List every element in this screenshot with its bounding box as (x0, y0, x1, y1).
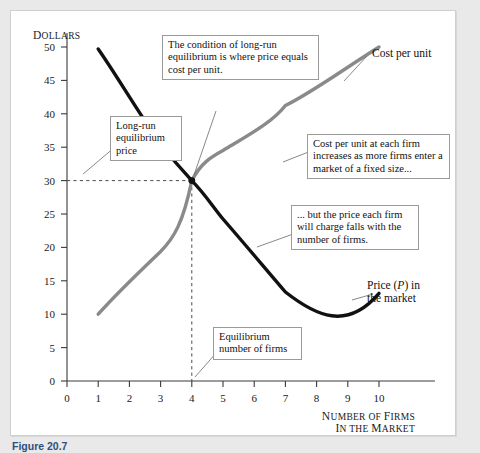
y-tick-label: 35 (44, 141, 56, 153)
price-label-line1: Price (P) in (367, 279, 420, 291)
callout-price-falls: ... but the price each firm will charge … (291, 205, 419, 250)
x-tick-label: 3 (158, 392, 164, 404)
y-tick-label: 40 (44, 108, 56, 120)
x-tick-label: 9 (345, 392, 351, 404)
x-tick-label: 6 (251, 392, 257, 404)
x-tick-label: 10 (374, 392, 386, 404)
y-tick-label: 50 (44, 41, 56, 53)
x-tick-label: 4 (189, 392, 195, 404)
x-axis-ticks (67, 381, 379, 387)
price-label-line2: the market (367, 292, 416, 304)
y-tick-label: 20 (44, 241, 56, 253)
x-tick-label: 1 (95, 392, 101, 404)
y-tick-label: 5 (50, 342, 56, 354)
y-tick-label: 0 (50, 375, 56, 387)
price-curve-label: Price (P) in the market (367, 279, 420, 305)
y-axis-title: DOLLARS (33, 29, 80, 41)
x-tick-label: 8 (314, 392, 320, 404)
callout-long-run-equilibrium-price: Long-run equilibrium price (110, 116, 182, 161)
x-tick-label: 7 (283, 392, 289, 404)
x-axis-tick-labels: 0 1 2 3 4 5 6 7 8 9 10 (64, 392, 385, 404)
x-axis-title: NUMBER OF FIRMS (322, 410, 415, 422)
y-tick-label: 30 (44, 175, 56, 187)
y-axis-ticks (61, 47, 67, 381)
y-axis-tick-labels: 0 5 10 15 20 25 30 35 40 45 50 (44, 41, 56, 387)
figure-panel: 0 5 10 15 20 25 30 35 40 45 50 (10, 10, 456, 436)
x-tick-label: 2 (127, 392, 132, 404)
figure-caption: Figure 20.7 (12, 440, 67, 452)
x-tick-label: 5 (220, 392, 226, 404)
callout-cost-per-unit-increases: Cost per unit at each firm increases as … (307, 134, 450, 179)
y-tick-label: 10 (44, 308, 56, 320)
x-axis-title-line2: IN THE MARKET (335, 422, 415, 434)
y-tick-label: 25 (44, 208, 56, 220)
leader-equilibrium-condition (194, 111, 216, 175)
x-tick-label: 0 (64, 392, 70, 404)
y-tick-label: 15 (44, 275, 56, 287)
callout-equilibrium-condition: The condition of long-run equilibrium is… (162, 35, 319, 80)
equilibrium-point (188, 177, 195, 184)
y-tick-label: 45 (44, 74, 56, 86)
cost-per-unit-curve-label: Cost per unit (372, 47, 431, 60)
price-curve (98, 49, 379, 316)
callout-equilibrium-number-of-firms: Equilibrium number of firms (213, 327, 302, 360)
